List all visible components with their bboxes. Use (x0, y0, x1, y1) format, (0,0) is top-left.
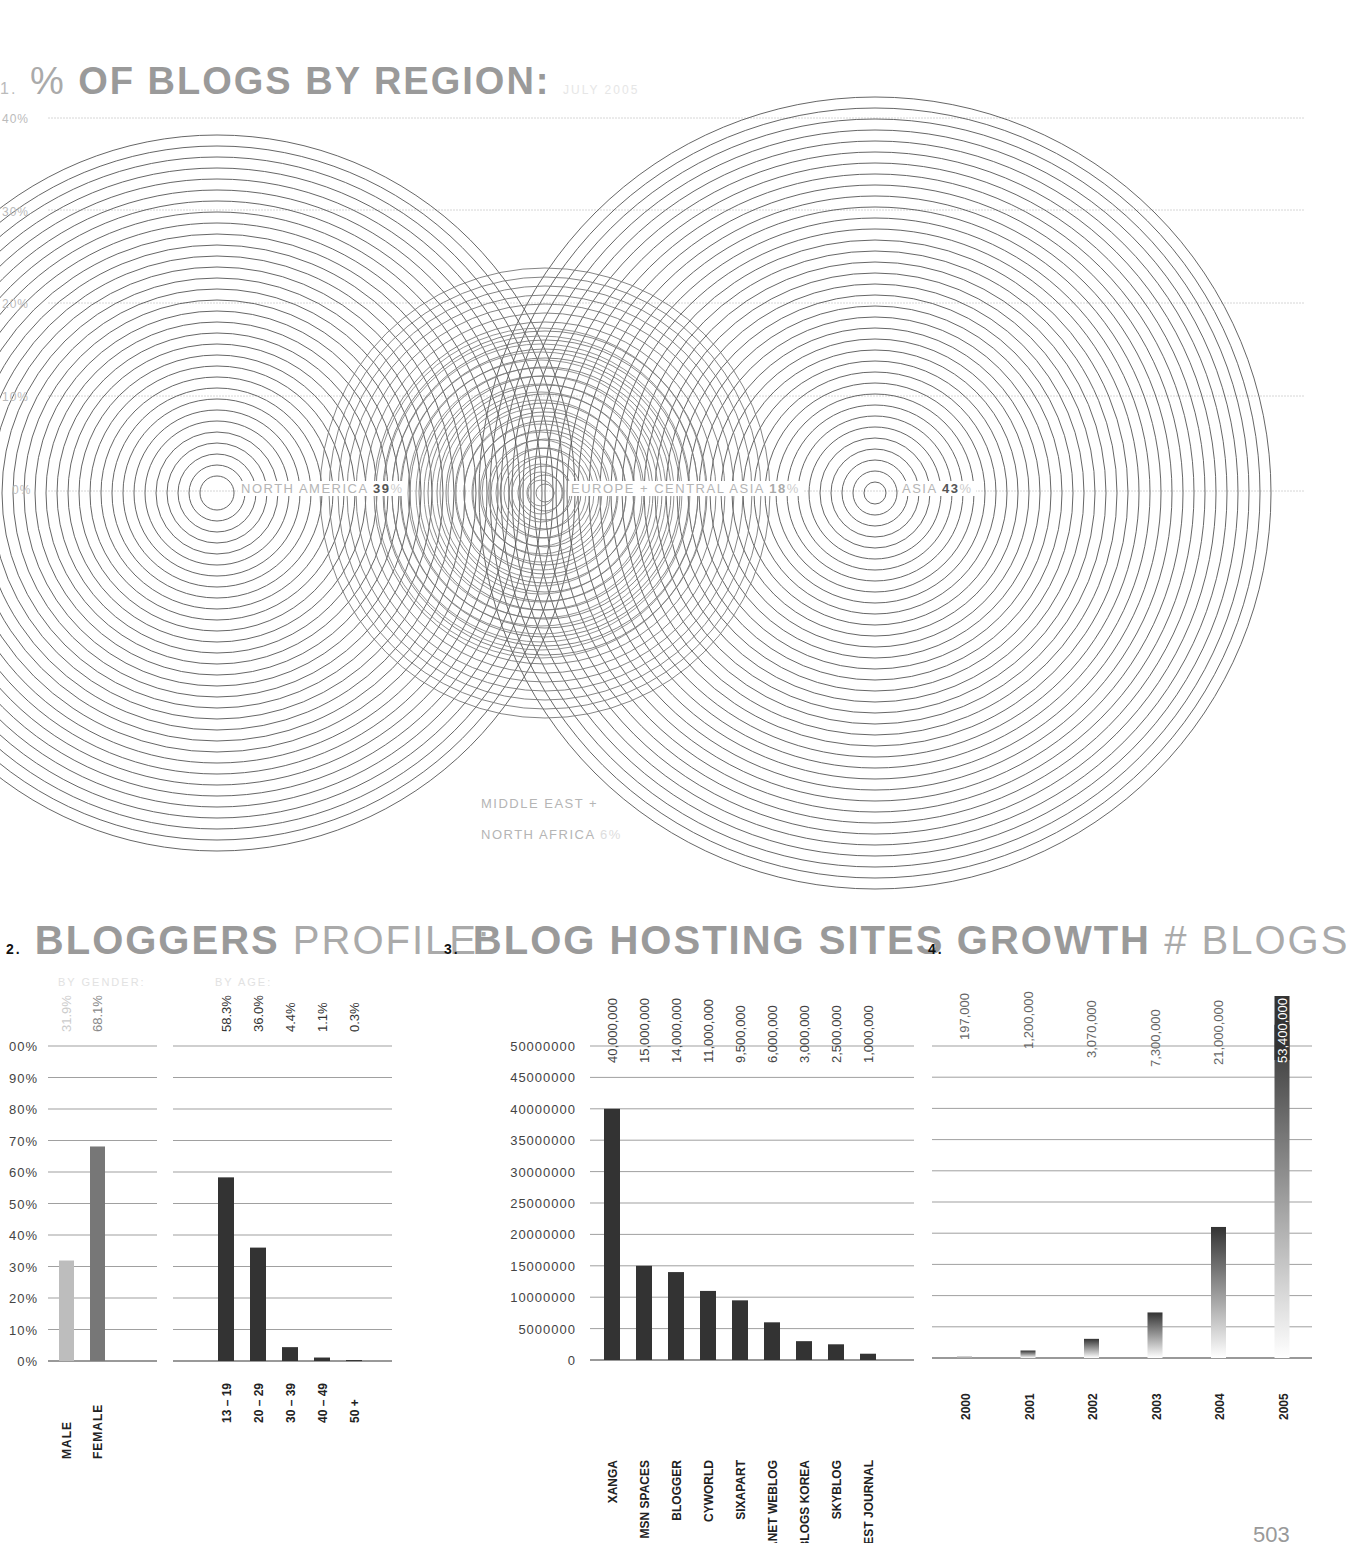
svg-text:30000000: 30000000 (510, 1165, 576, 1180)
svg-text:20%: 20% (9, 1291, 38, 1306)
svg-text:14,000,000: 14,000,000 (669, 998, 684, 1063)
region-unit: % (609, 827, 622, 842)
svg-text:40 – 49: 40 – 49 (316, 1383, 330, 1423)
label-middle-east: MIDDLE EAST + NORTH AFRICA 6% (478, 788, 625, 850)
region-value: 18 (769, 481, 786, 496)
page-number: 503 (1253, 1522, 1290, 1543)
label-asia: ASIA 43% (899, 481, 976, 496)
svg-text:2005: 2005 (1277, 1393, 1291, 1420)
svg-text:0: 0 (568, 1353, 576, 1368)
svg-text:00%: 00% (9, 1039, 38, 1054)
svg-text:0%: 0% (17, 1354, 38, 1369)
svg-text:197,000: 197,000 (957, 993, 972, 1040)
bar-male (59, 1261, 74, 1361)
svg-text:15000000: 15000000 (510, 1259, 576, 1274)
svg-text:90%: 90% (9, 1071, 38, 1086)
region-unit: % (960, 481, 973, 496)
region-value: 39 (373, 481, 390, 496)
svg-text:7,300,000: 7,300,000 (1148, 1009, 1163, 1067)
svg-text:FEMALE: FEMALE (91, 1404, 105, 1459)
svg-text:36.0%: 36.0% (251, 995, 266, 1032)
svg-text:CYWORLD: CYWORLD (702, 1460, 716, 1522)
svg-text:60%: 60% (9, 1165, 38, 1180)
svg-text:3,070,000: 3,070,000 (1084, 1000, 1099, 1058)
svg-text:45000000: 45000000 (510, 1070, 576, 1085)
svg-text:SKYBLOG: SKYBLOG (830, 1460, 844, 1519)
svg-text:2003: 2003 (1150, 1393, 1164, 1420)
svg-text:2002: 2002 (1086, 1393, 1100, 1420)
svg-text:58.3%: 58.3% (219, 995, 234, 1032)
svg-text:9,500,000: 9,500,000 (733, 1005, 748, 1063)
grid-label-40: 40% (2, 112, 29, 126)
region-value: 43 (942, 481, 959, 496)
svg-text:15,000,000: 15,000,000 (637, 998, 652, 1063)
section3-number: 3. (444, 941, 460, 957)
svg-text:10000000: 10000000 (510, 1290, 576, 1305)
grid-label-10: 10% (2, 390, 29, 404)
svg-text:40000000: 40000000 (510, 1102, 576, 1117)
region-rings-chart (0, 0, 1347, 900)
svg-text:70%: 70% (9, 1134, 38, 1149)
region-name: EUROPE + CENTRAL ASIA (571, 481, 764, 496)
svg-text:20 – 29: 20 – 29 (252, 1383, 266, 1423)
svg-text:2000: 2000 (959, 1393, 973, 1420)
svg-text:30%: 30% (9, 1260, 38, 1275)
svg-text:3,000,000: 3,000,000 (797, 1005, 812, 1063)
section2-title: 2. BLOGGERS PROFILE: (6, 918, 491, 963)
svg-text:2004: 2004 (1213, 1393, 1227, 1420)
svg-text:10%: 10% (9, 1323, 38, 1338)
svg-text:6,000,000: 6,000,000 (765, 1005, 780, 1063)
grid-label-20: 20% (2, 297, 29, 311)
section2-number: 2. (6, 941, 22, 957)
svg-text:35000000: 35000000 (510, 1133, 576, 1148)
label-north-america: NORTH AMERICA 39% (238, 481, 407, 496)
svg-text:53,400,000: 53,400,000 (1275, 998, 1290, 1063)
region-name-line2: NORTH AFRICA (481, 827, 595, 842)
section3-title-text: BLOG HOSTING SITES (473, 918, 945, 962)
section2-title-bold: BLOGGERS (35, 918, 280, 962)
svg-text:30 – 39: 30 – 39 (284, 1383, 298, 1423)
region-name: ASIA (902, 481, 937, 496)
svg-text:BLOGGER: BLOGGER (670, 1460, 684, 1521)
svg-text:20000000: 20000000 (510, 1227, 576, 1242)
svg-text:25000000: 25000000 (510, 1196, 576, 1211)
svg-text:21,000,000: 21,000,000 (1211, 1000, 1226, 1065)
region-unit: % (787, 481, 800, 496)
svg-text:80%: 80% (9, 1102, 38, 1117)
section4-title: 4. GROWTH # BLOGS (928, 918, 1347, 963)
region-value: 6 (600, 827, 609, 842)
svg-text:MSN SPACES: MSN SPACES (638, 1460, 652, 1538)
section4-title-bold: GROWTH (957, 918, 1151, 962)
svg-text:GREATEST JOURNAL: GREATEST JOURNAL (862, 1460, 876, 1543)
section3-title: 3. BLOG HOSTING SITES (444, 918, 944, 963)
region-unit: % (390, 481, 403, 496)
svg-text:YAHOO BLOGS KOREA: YAHOO BLOGS KOREA (798, 1460, 812, 1543)
svg-text:40%: 40% (9, 1228, 38, 1243)
region-name: NORTH AMERICA (241, 481, 368, 496)
svg-text:50 +: 50 + (348, 1399, 362, 1423)
svg-text:1.1%: 1.1% (315, 1002, 330, 1032)
label-europe-central-asia: EUROPE + CENTRAL ASIA 18% (568, 481, 803, 496)
svg-text:2,500,000: 2,500,000 (829, 1005, 844, 1063)
svg-text:4.4%: 4.4% (283, 1002, 298, 1032)
svg-text:5000000: 5000000 (518, 1322, 576, 1337)
svg-text:31.9%: 31.9% (59, 995, 74, 1032)
svg-text:SIXAPART: SIXAPART (734, 1459, 748, 1519)
svg-text:40,000,000: 40,000,000 (605, 998, 620, 1063)
svg-text:1,200,000: 1,200,000 (1021, 991, 1036, 1049)
section4-number: 4. (928, 941, 944, 957)
svg-text:PLANET WEBLOG: PLANET WEBLOG (766, 1460, 780, 1543)
svg-text:1,000,000: 1,000,000 (861, 1005, 876, 1063)
bar-female (90, 1146, 105, 1361)
grid-label-30: 30% (2, 205, 29, 219)
svg-text:2001: 2001 (1023, 1393, 1037, 1420)
svg-text:11,000,000: 11,000,000 (701, 999, 716, 1063)
svg-text:XANGA: XANGA (606, 1460, 620, 1504)
svg-text:MALE: MALE (60, 1421, 74, 1459)
svg-text:0.3%: 0.3% (347, 1002, 362, 1032)
grid-label-0: 0% (12, 483, 31, 497)
svg-text:13 – 19: 13 – 19 (220, 1383, 234, 1423)
svg-text:50000000: 50000000 (510, 1039, 576, 1054)
bar-charts: 00%90%80%70%60%50%40%30%20%10%0%31.9%MAL… (0, 980, 1347, 1543)
section4-title-light: # BLOGS (1164, 918, 1347, 962)
